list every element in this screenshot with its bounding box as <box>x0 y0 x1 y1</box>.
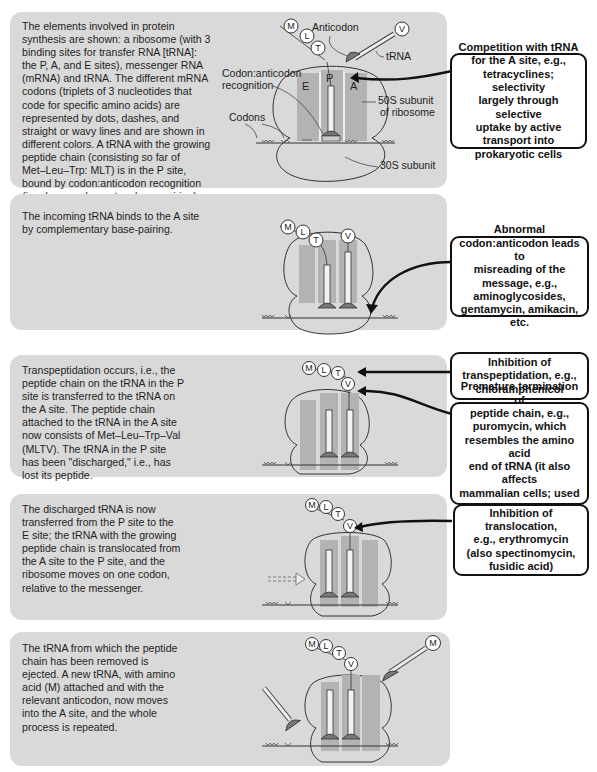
step-4-description: The discharged tRNA is now transferred f… <box>22 503 180 595</box>
callout-translocation-inhibition: Inhibition of translocation, e.g., eryth… <box>453 504 589 576</box>
callout-a-site-competition: Competition with tRNA for the A site, e.… <box>450 53 587 149</box>
step-3-description: Transpeptidation occurs, i.e., the pepti… <box>22 364 184 482</box>
callout-premature-termination: Premature termination of peptide chain, … <box>450 402 589 505</box>
step-5-description: The tRNA from which the peptide chain ha… <box>22 642 177 734</box>
callout-misreading: Abnormal codon:anticodon leads to misrea… <box>450 236 589 317</box>
step-2-description: The incoming tRNA binds to the A site by… <box>22 210 199 236</box>
